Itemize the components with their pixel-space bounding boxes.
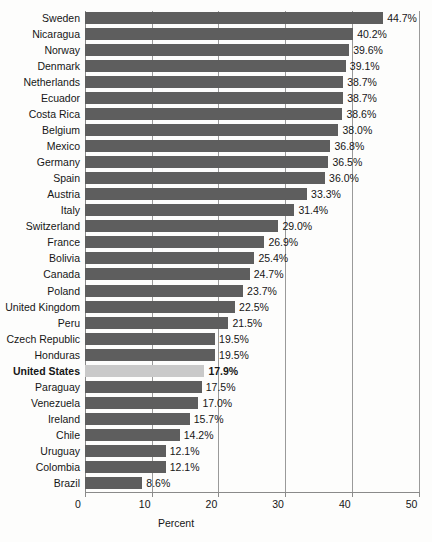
category-label: Italy [0, 203, 80, 217]
category-label: United States [0, 364, 80, 378]
category-label: Sweden [0, 11, 80, 25]
bar-row: Mexico36.8% [0, 139, 432, 156]
bar [85, 397, 198, 409]
category-label: Colombia [0, 460, 80, 474]
bar [85, 76, 343, 88]
bar-row: Costa Rica38.6% [0, 107, 432, 124]
bar-value-label: 17.9% [208, 364, 238, 378]
tick-label-20: 20 [196, 497, 226, 511]
bar [85, 12, 383, 24]
category-label: Belgium [0, 123, 80, 137]
category-label: Costa Rica [0, 107, 80, 121]
bar-row: Colombia12.1% [0, 460, 432, 477]
bar [85, 60, 346, 72]
bar-value-label: 40.2% [357, 27, 387, 41]
bar-value-label: 31.4% [298, 203, 328, 217]
x-axis-ticks: 01020304050 [0, 492, 432, 512]
bar [85, 172, 325, 184]
bar-row: Ecuador38.7% [0, 91, 432, 108]
bar-value-label: 29.0% [282, 219, 312, 233]
plot-area: Sweden44.7%Nicaragua40.2%Norway39.6%Denm… [0, 9, 432, 542]
category-label: Peru [0, 316, 80, 330]
bar-row: Peru21.5% [0, 316, 432, 333]
category-label: Brazil [0, 476, 80, 490]
bar [85, 108, 342, 120]
category-label: Chile [0, 428, 80, 442]
bar-row: Spain36.0% [0, 171, 432, 188]
bar-value-label: 38.7% [347, 91, 377, 105]
tick-label-10: 10 [130, 497, 160, 511]
category-label: Netherlands [0, 75, 80, 89]
category-label: Denmark [0, 59, 80, 73]
bar-row: United States17.9% [0, 364, 432, 381]
bar [85, 477, 142, 489]
bar-value-label: 36.8% [334, 139, 364, 153]
category-label: Nicaragua [0, 27, 80, 41]
category-label: Austria [0, 187, 80, 201]
bar-value-label: 21.5% [232, 316, 262, 330]
category-label: Ecuador [0, 91, 80, 105]
bar [85, 429, 180, 441]
bar-value-label: 23.7% [247, 284, 277, 298]
bar-row: Nicaragua40.2% [0, 27, 432, 44]
bar [85, 445, 166, 457]
category-label: Ireland [0, 412, 80, 426]
bar [85, 285, 243, 297]
category-label: Bolivia [0, 251, 80, 265]
bar-value-label: 24.7% [254, 267, 284, 281]
bar [85, 140, 330, 152]
bar [85, 28, 353, 40]
bar-row: Ireland15.7% [0, 412, 432, 429]
bar [85, 156, 328, 168]
bar [85, 333, 215, 345]
bar [85, 44, 349, 56]
category-label: Poland [0, 284, 80, 298]
bar-row: Belgium38.0% [0, 123, 432, 140]
bar-value-label: 38.6% [346, 107, 376, 121]
tick-label-50: 50 [397, 497, 427, 511]
bar-value-label: 39.1% [350, 59, 380, 73]
bar-value-label: 36.0% [329, 171, 359, 185]
bar [85, 349, 215, 361]
category-label: United Kingdom [0, 300, 80, 314]
chart-title-strip [0, 0, 432, 9]
bar-value-label: 14.2% [184, 428, 214, 442]
bar-row: Chile14.2% [0, 428, 432, 445]
bar-value-label: 38.0% [342, 123, 372, 137]
bar [85, 413, 190, 425]
category-label: Canada [0, 267, 80, 281]
bar-value-label: 26.9% [268, 235, 298, 249]
bar-row: Uruguay12.1% [0, 444, 432, 461]
bar [85, 268, 250, 280]
x-axis-title-text: Percent [158, 517, 194, 529]
bar-value-label: 19.5% [219, 348, 249, 362]
bar-row: Sweden44.7% [0, 11, 432, 28]
bar [85, 365, 204, 377]
bar-row: Switzerland29.0% [0, 219, 432, 236]
x-axis-title: Percent [0, 517, 432, 529]
bar-row: Italy31.4% [0, 203, 432, 220]
bar-row: Brazil8.6% [0, 476, 432, 493]
bar [85, 188, 307, 200]
bar-row: Norway39.6% [0, 43, 432, 60]
category-label: Venezuela [0, 396, 80, 410]
bar-row: Bolivia25.4% [0, 251, 432, 268]
bar-value-label: 22.5% [239, 300, 269, 314]
bar-row: Poland23.7% [0, 284, 432, 301]
bar-row: Canada24.7% [0, 267, 432, 284]
bar [85, 124, 338, 136]
category-label: Spain [0, 171, 80, 185]
bar-value-label: 17.0% [202, 396, 232, 410]
category-label: Honduras [0, 348, 80, 362]
category-label: Mexico [0, 139, 80, 153]
bar-value-label: 19.5% [219, 332, 249, 346]
bar [85, 236, 264, 248]
bar [85, 317, 228, 329]
bar-row: France26.9% [0, 235, 432, 252]
bar-row: Honduras19.5% [0, 348, 432, 365]
bar-value-label: 17.5% [206, 380, 236, 394]
bar-row: Germany36.5% [0, 155, 432, 172]
bar-value-label: 12.1% [170, 444, 200, 458]
bar [85, 252, 254, 264]
bar [85, 381, 202, 393]
